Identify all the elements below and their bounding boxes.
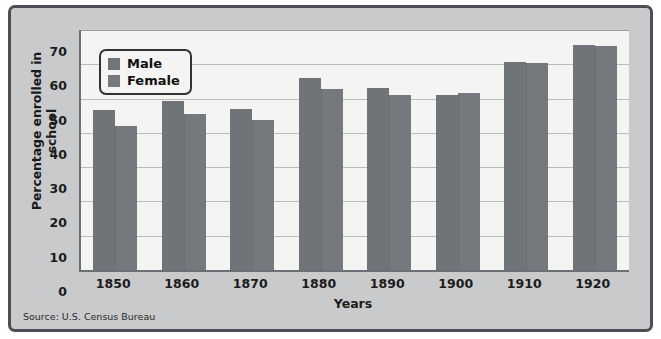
bar-female-1920 [595, 46, 617, 270]
source-note: Source: U.S. Census Bureau [23, 311, 155, 322]
bar-group [299, 30, 343, 270]
y-tick-label: 0 [27, 284, 67, 299]
bar-male-1880 [299, 78, 321, 270]
y-axis-title: Percentage enrolled in school [29, 36, 59, 226]
bar-female-1870 [252, 120, 274, 270]
chart-figure: Percentage enrolled in school 0102030405… [8, 5, 653, 332]
x-axis-title: Years [79, 296, 627, 311]
y-tick-label: 60 [27, 78, 67, 93]
bar-male-1860 [162, 101, 184, 270]
bar-female-1880 [321, 89, 343, 270]
legend-swatch-female [108, 75, 120, 87]
y-tick-label: 70 [27, 44, 67, 59]
bar-group [230, 30, 274, 270]
legend-label-female: Female [127, 73, 180, 88]
y-tick-label: 10 [27, 250, 67, 265]
bar-male-1900 [436, 95, 458, 270]
y-tick-label: 40 [27, 147, 67, 162]
chart-legend: Male Female [99, 49, 192, 95]
bar-group [504, 30, 548, 270]
bar-male-1890 [367, 88, 389, 270]
bar-group [436, 30, 480, 270]
bar-female-1860 [184, 114, 206, 270]
legend-item-male: Male [108, 55, 180, 72]
legend-item-female: Female [108, 72, 180, 89]
bar-female-1850 [115, 126, 137, 270]
bar-female-1910 [526, 63, 548, 270]
bar-male-1870 [230, 109, 252, 270]
x-tick-label: 1920 [548, 276, 638, 291]
y-tick-label: 30 [27, 181, 67, 196]
legend-label-male: Male [127, 56, 162, 71]
bar-female-1900 [458, 93, 480, 270]
bar-male-1910 [504, 62, 526, 270]
bar-group [367, 30, 411, 270]
bar-female-1890 [389, 95, 411, 270]
bar-male-1850 [93, 110, 115, 270]
y-tick-label: 50 [27, 113, 67, 128]
bar-male-1920 [573, 45, 595, 270]
y-tick-label: 20 [27, 215, 67, 230]
legend-swatch-male [108, 58, 120, 70]
bar-group [573, 30, 617, 270]
